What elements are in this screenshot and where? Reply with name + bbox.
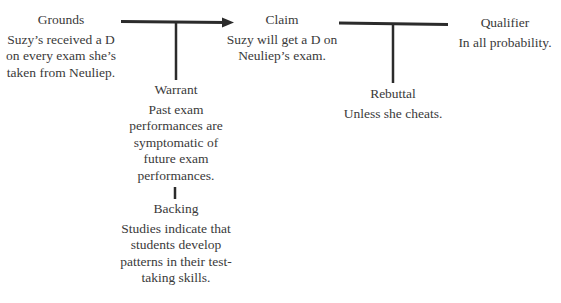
qualifier-title: Qualifier <box>450 15 560 32</box>
warrant-line-2: performances are <box>118 118 234 135</box>
grounds-line-2: on every exam she’s <box>2 48 120 65</box>
claim-node: Claim Suzy will get a D on Neuliep’s exa… <box>222 12 342 65</box>
backing-line-1: Studies indicate that <box>110 221 242 238</box>
claim-title: Claim <box>222 12 342 29</box>
claim-line-2: Neuliep’s exam. <box>222 48 342 65</box>
qualifier-line-1: In all probability. <box>450 35 560 52</box>
warrant-line-4: future exam <box>118 151 234 168</box>
rebuttal-title: Rebuttal <box>335 86 451 103</box>
warrant-line-1: Past exam <box>118 102 234 119</box>
backing-title: Backing <box>110 201 242 218</box>
warrant-line-3: symptomatic of <box>118 135 234 152</box>
grounds-title: Grounds <box>2 12 120 29</box>
warrant-node: Warrant Past exam performances are sympt… <box>118 82 234 184</box>
backing-node: Backing Studies indicate that students d… <box>110 201 242 287</box>
grounds-node: Grounds Suzy’s received a D on every exa… <box>2 12 120 81</box>
warrant-title: Warrant <box>118 82 234 99</box>
qualifier-node: Qualifier In all probability. <box>450 15 560 51</box>
claim-line-1: Suzy will get a D on <box>222 32 342 49</box>
backing-line-2: students develop <box>110 237 242 254</box>
grounds-claim-arrow <box>121 22 226 23</box>
backing-line-3: patterns in their test- <box>110 254 242 271</box>
rebuttal-line-1: Unless she cheats. <box>335 106 451 123</box>
warrant-line-5: performances. <box>118 168 234 185</box>
grounds-line-3: taken from Neuliep. <box>2 65 120 82</box>
backing-line-4: taking skills. <box>110 270 242 287</box>
rebuttal-node: Rebuttal Unless she cheats. <box>335 86 451 122</box>
grounds-line-1: Suzy’s received a D <box>2 32 120 49</box>
